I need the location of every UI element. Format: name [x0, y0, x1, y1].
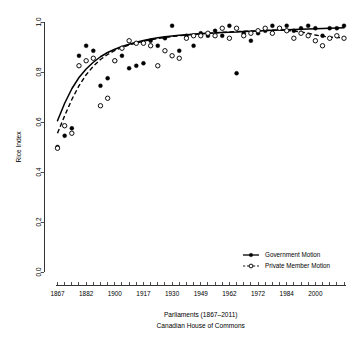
point-private-member-motion — [220, 26, 224, 30]
point-private-member-motion — [163, 49, 167, 53]
point-government-motion — [321, 34, 325, 38]
point-government-motion — [177, 49, 181, 53]
point-government-motion — [270, 24, 274, 28]
point-private-member-motion — [55, 146, 59, 150]
point-private-member-motion — [156, 64, 160, 68]
point-government-motion — [98, 84, 102, 88]
point-government-motion — [313, 26, 317, 30]
y-axis: 0.00.20.40.60.81.0 — [35, 17, 45, 276]
point-government-motion — [156, 44, 160, 48]
y-axis-title: Rice Index — [15, 131, 22, 163]
point-government-motion — [292, 29, 296, 33]
point-private-member-motion — [227, 36, 231, 40]
point-government-motion — [192, 44, 196, 48]
point-private-member-motion — [270, 31, 274, 35]
x-tick-label: 1917 — [136, 290, 151, 297]
legend-label: Government Motion — [265, 251, 321, 258]
y-tick-label: 0.2 — [35, 217, 42, 226]
legend-label: Private Member Motion — [265, 262, 331, 269]
point-government-motion — [63, 134, 67, 138]
point-government-motion — [163, 36, 167, 40]
point-private-member-motion — [120, 46, 124, 50]
point-private-member-motion — [148, 44, 152, 48]
point-government-motion — [335, 26, 339, 30]
point-private-member-motion — [299, 31, 303, 35]
chart-canvas: 0.00.20.40.60.81.0 186718821900191719301… — [0, 0, 360, 347]
chart-legend: Government MotionPrivate Member Motion — [243, 251, 331, 269]
y-tick-label: 0.6 — [35, 117, 42, 126]
point-government-motion — [220, 34, 224, 38]
point-private-member-motion — [91, 56, 95, 60]
point-private-member-motion — [177, 56, 181, 60]
data-points — [55, 24, 346, 151]
fit-curves — [58, 28, 345, 134]
axis-titles: Rice IndexParliaments (1867–2011)Canadia… — [15, 131, 246, 329]
point-private-member-motion — [62, 124, 66, 128]
point-private-member-motion — [206, 31, 210, 35]
point-government-motion — [249, 39, 253, 43]
point-private-member-motion — [256, 29, 260, 33]
point-private-member-motion — [105, 96, 109, 100]
point-private-member-motion — [327, 36, 331, 40]
y-tick-label: 0.4 — [35, 167, 42, 176]
point-government-motion — [134, 64, 138, 68]
x-tick-label: 1962 — [222, 290, 237, 297]
point-government-motion — [306, 24, 310, 28]
point-government-motion — [227, 24, 231, 28]
point-government-motion — [91, 49, 95, 53]
point-private-member-motion — [113, 59, 117, 63]
legend-marker-open-circle-icon — [249, 264, 253, 268]
point-private-member-motion — [249, 31, 253, 35]
point-private-member-motion — [320, 44, 324, 48]
point-private-member-motion — [213, 34, 217, 38]
point-private-member-motion — [335, 34, 339, 38]
point-government-motion — [170, 24, 174, 28]
point-government-motion — [70, 126, 74, 130]
point-private-member-motion — [313, 39, 317, 43]
point-government-motion — [84, 44, 88, 48]
point-government-motion — [127, 66, 131, 70]
x-axis-title-line1: Parliaments (1867–2011) — [164, 311, 238, 319]
point-private-member-motion — [242, 34, 246, 38]
x-tick-label: 1882 — [79, 290, 94, 297]
point-private-member-motion — [127, 39, 131, 43]
y-tick-label: 0.0 — [35, 267, 42, 276]
x-tick-label: 2000 — [308, 290, 323, 297]
legend-marker-filled-circle-icon — [249, 253, 253, 257]
point-private-member-motion — [134, 41, 138, 45]
x-tick-label: 1867 — [50, 290, 65, 297]
point-private-member-motion — [306, 34, 310, 38]
rice-index-chart: 0.00.20.40.60.81.0 186718821900191719301… — [0, 0, 360, 347]
point-private-member-motion — [277, 26, 281, 30]
x-tick-label: 1972 — [251, 290, 266, 297]
point-private-member-motion — [263, 26, 267, 30]
point-private-member-motion — [191, 34, 195, 38]
point-government-motion — [285, 24, 289, 28]
x-tick-label: 1949 — [194, 290, 209, 297]
point-private-member-motion — [84, 59, 88, 63]
y-tick-label: 0.8 — [35, 67, 42, 76]
point-government-motion — [120, 54, 124, 58]
point-private-member-motion — [292, 36, 296, 40]
x-axis: 1867188219001917193019491962197219842000 — [50, 282, 346, 297]
point-government-motion — [106, 76, 110, 80]
point-private-member-motion — [98, 104, 102, 108]
point-private-member-motion — [199, 34, 203, 38]
y-tick-label: 1.0 — [35, 17, 42, 26]
x-tick-label: 1900 — [108, 290, 123, 297]
fit-curve-private-member — [58, 30, 345, 133]
point-private-member-motion — [70, 131, 74, 135]
point-government-motion — [235, 71, 239, 75]
point-government-motion — [141, 61, 145, 65]
point-government-motion — [77, 54, 81, 58]
point-private-member-motion — [170, 54, 174, 58]
point-private-member-motion — [342, 36, 346, 40]
point-government-motion — [299, 26, 303, 30]
point-government-motion — [342, 24, 346, 28]
x-tick-label: 1984 — [280, 290, 295, 297]
point-private-member-motion — [285, 29, 289, 33]
point-private-member-motion — [77, 64, 81, 68]
point-private-member-motion — [234, 26, 238, 30]
point-government-motion — [149, 39, 153, 43]
point-government-motion — [213, 29, 217, 33]
